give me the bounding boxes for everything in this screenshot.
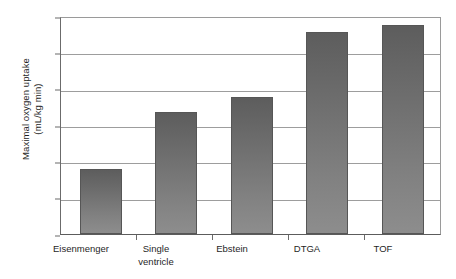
bar-eisenmenger[interactable] <box>80 169 122 234</box>
y-axis-title-line-1: Maximal oxygen uptake <box>20 58 32 160</box>
bar-ebstein[interactable] <box>231 97 273 234</box>
x-label-single-ventricle-line-1: Single <box>116 243 196 256</box>
x-tick-mark-2 <box>212 235 213 240</box>
x-label-ebstein: Ebstein <box>192 243 272 256</box>
y-tick-mark-5 <box>55 199 60 200</box>
bar-chart: Maximal oxygen uptake (mL/kg min) 30 25 … <box>0 0 456 279</box>
y-tick-mark-15 <box>55 126 60 127</box>
x-label-single-ventricle-line-2: ventricle <box>116 256 196 269</box>
y-axis-title: Maximal oxygen uptake (mL/kg min) <box>15 9 49 209</box>
x-label-ebstein-line-1: Ebstein <box>192 243 272 256</box>
x-label-dtga-line-1: DTGA <box>267 243 347 256</box>
x-label-dtga: DTGA <box>267 243 347 256</box>
x-label-single-ventricle: Single ventricle <box>116 243 196 269</box>
y-tick-mark-25 <box>55 53 60 54</box>
x-tick-mark-3 <box>288 235 289 240</box>
bars-layer <box>61 18 440 234</box>
x-tick-mark-4 <box>364 235 365 240</box>
x-label-tof: TOF <box>343 243 423 256</box>
y-tick-mark-30 <box>55 17 60 18</box>
y-tick-mark-0 <box>55 235 60 236</box>
bar-single-ventricle[interactable] <box>155 112 197 234</box>
y-axis-title-line-2: (mL/kg min) <box>32 83 44 134</box>
bar-dtga[interactable] <box>306 32 348 234</box>
x-tick-mark-1 <box>136 235 137 240</box>
bar-tof[interactable] <box>382 25 424 234</box>
x-label-tof-line-1: TOF <box>343 243 423 256</box>
x-label-eisenmenger-line-1: Eisenmenger <box>41 243 121 256</box>
x-label-eisenmenger: Eisenmenger <box>41 243 121 256</box>
y-tick-mark-10 <box>55 162 60 163</box>
y-tick-mark-20 <box>55 90 60 91</box>
